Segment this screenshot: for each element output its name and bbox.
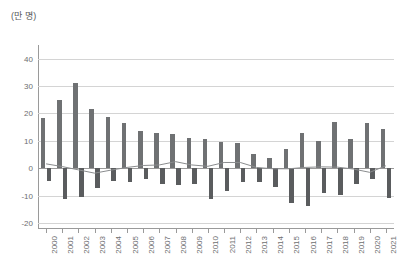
y-axis-unit-title: (만 명) [11,9,37,22]
x-tick-mark [354,228,355,233]
x-tick-mark [62,228,63,233]
x-tick-mark [95,228,96,233]
x-tick-mark [192,228,193,233]
x-tick-label: 2006 [147,236,156,254]
x-tick-label: 2015 [292,236,301,254]
x-tick-mark [176,228,177,233]
x-tick-mark [273,228,274,233]
x-tick-mark [224,228,225,233]
x-tick-mark [370,228,371,233]
y-tick-label: 10 [24,136,33,145]
x-tick-label: 2009 [195,236,204,254]
x-tick-mark [46,228,47,233]
gridline [38,223,394,224]
x-tick-label: 2007 [163,236,172,254]
x-tick-label: 2001 [66,236,75,254]
x-tick-mark [256,228,257,233]
y-tick-label: -10 [21,191,33,200]
y-tick-label: 20 [24,109,33,118]
y-tick-label: 40 [24,54,33,63]
x-tick-mark [159,228,160,233]
x-tick-mark [127,228,128,233]
x-tick-mark [321,228,322,233]
x-tick-label: 2003 [98,236,107,254]
x-tick-label: 2008 [179,236,188,254]
x-tick-label: 2018 [341,236,350,254]
x-tick-label: 2020 [373,236,382,254]
net-line-series [38,45,394,223]
x-tick-label: 2019 [357,236,366,254]
x-tick-label: 2004 [114,236,123,254]
x-tick-mark [143,228,144,233]
x-tick-mark [208,228,209,233]
x-tick-mark [337,228,338,233]
x-tick-label: 2005 [131,236,140,254]
x-tick-label: 2017 [325,236,334,254]
x-tick-mark [78,228,79,233]
x-tick-mark [305,228,306,233]
x-axis-tick-marks [38,228,394,234]
x-axis-tick-labels: 2000200120022003200420052006200720082009… [38,236,394,272]
x-tick-label: 2014 [276,236,285,254]
chart-container: (만 명) 403020100-10-20 200020012002200320… [0,0,406,273]
y-tick-label: -20 [21,219,33,228]
x-tick-label: 2016 [309,236,318,254]
x-tick-label: 2021 [389,236,398,254]
y-axis-tick-labels: 403020100-10-20 [0,45,33,223]
x-tick-mark [111,228,112,233]
x-tick-label: 2011 [228,236,237,253]
x-tick-mark [240,228,241,233]
x-tick-label: 2012 [244,236,253,254]
net-line-path [46,162,386,174]
y-tick-label: 30 [24,82,33,91]
y-tick-label: 0 [29,164,33,173]
x-tick-mark [289,228,290,233]
x-tick-label: 2002 [82,236,91,254]
x-tick-label: 2010 [211,236,220,254]
x-tick-label: 2013 [260,236,269,254]
x-tick-label: 2000 [50,236,59,254]
x-tick-mark [386,228,387,233]
